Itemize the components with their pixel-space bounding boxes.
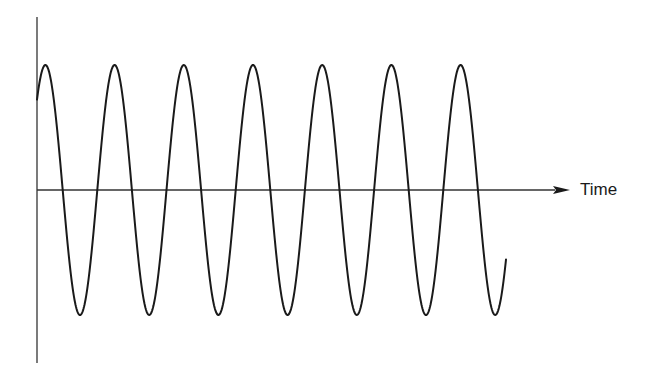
sine-wave-diagram — [0, 0, 652, 378]
x-axis-label: Time — [580, 181, 617, 198]
x-axis-arrowhead-icon — [553, 186, 570, 194]
